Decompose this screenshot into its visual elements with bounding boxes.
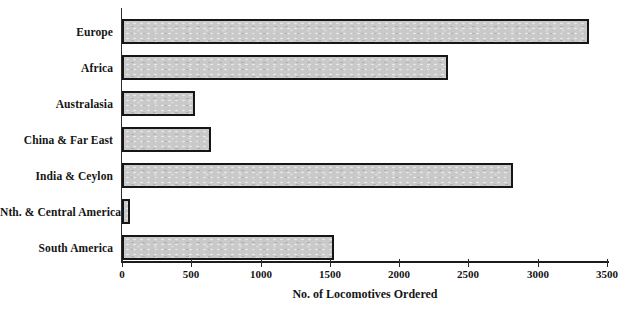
x-tick-mark: [468, 259, 469, 267]
x-tick-mark: [607, 259, 608, 267]
bar-south-america: [122, 235, 334, 260]
bar-china-far-east: [122, 127, 211, 152]
x-axis-line: [121, 261, 609, 263]
x-tick-label: 1500: [298, 268, 362, 281]
x-tick-mark: [399, 259, 400, 267]
bar-india-ceylon: [122, 163, 513, 188]
x-axis-title: No. of Locomotives Ordered: [215, 287, 515, 301]
bar-europe: [122, 19, 589, 44]
category-label: Africa: [0, 61, 113, 75]
bar-australasia: [122, 91, 195, 116]
x-tick-mark: [261, 259, 262, 267]
x-tick-label: 500: [159, 268, 223, 281]
category-label: Australasia: [0, 97, 113, 111]
x-tick-mark: [191, 259, 192, 267]
bar-africa: [122, 55, 448, 80]
x-tick-mark: [122, 259, 123, 267]
x-tick-label: 2000: [367, 268, 431, 281]
category-label: Europe: [0, 25, 113, 39]
x-tick-label: 3000: [506, 268, 570, 281]
x-tick-label: 2500: [436, 268, 500, 281]
y-axis-line: [121, 8, 122, 262]
x-tick-label: 3500: [575, 268, 639, 281]
locomotives-bar-chart: EuropeAfricaAustralasiaChina & Far EastI…: [0, 0, 639, 313]
x-tick-mark: [538, 259, 539, 267]
bar-nth-central-america: [122, 199, 130, 224]
category-label: South America: [0, 241, 113, 255]
x-tick-mark: [330, 259, 331, 267]
category-label: Nth. & Central America: [0, 205, 113, 219]
x-tick-label: 1000: [229, 268, 293, 281]
category-label: China & Far East: [0, 133, 113, 147]
x-tick-label: 0: [90, 268, 154, 281]
category-label: India & Ceylon: [0, 169, 113, 183]
